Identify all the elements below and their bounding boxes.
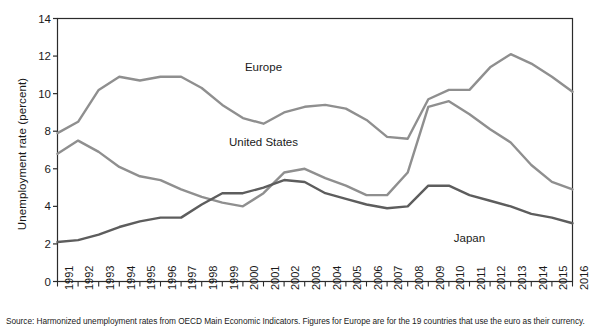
x-axis-tick-label: 1997: [186, 265, 198, 289]
x-axis-tick-label: 2016: [578, 265, 590, 289]
x-axis-tick-label: 2008: [413, 265, 425, 289]
series-line-united-states: [58, 101, 573, 206]
plot-frame: [58, 19, 573, 282]
x-axis-tick-label: 1991: [63, 265, 75, 289]
x-axis-tick-label: 2006: [372, 265, 384, 289]
x-axis-tick-label: 2014: [537, 265, 549, 289]
x-axis-tick-label: 1995: [145, 265, 157, 289]
x-axis-tick-label: 2010: [454, 265, 466, 289]
x-axis-tick-label: 2005: [351, 265, 363, 289]
x-axis-tick-label: 2015: [557, 265, 569, 289]
x-axis-tick-label: 2001: [269, 265, 281, 289]
x-axis-tick-label: 1996: [166, 265, 178, 289]
series-line-japan: [58, 180, 573, 242]
x-axis-tick-label: 2007: [392, 265, 404, 289]
x-axis-tick-label: 1992: [83, 265, 95, 289]
x-axis-tick-label: 2004: [331, 265, 343, 289]
series-label-europe: Europe: [245, 61, 282, 73]
x-axis-tick-label: 1993: [104, 265, 116, 289]
x-axis-tick-label: 2009: [434, 265, 446, 289]
x-axis-tick-label: 2011: [475, 266, 487, 290]
series-label-japan: Japan: [454, 232, 485, 244]
series-line-europe: [58, 54, 573, 139]
x-axis-tick-label: 1998: [207, 265, 219, 289]
x-axis-tick-label: 1994: [125, 265, 137, 289]
x-axis-tick-label: 2013: [516, 265, 528, 289]
x-axis-tick-label: 2000: [248, 265, 260, 289]
x-axis-tick-label: 1999: [228, 265, 240, 289]
source-note: Source: Harmonized unemployment rates fr…: [6, 316, 585, 326]
series-label-united-states: United States: [229, 136, 298, 148]
x-axis-tick-label: 2002: [289, 265, 301, 289]
x-axis-tick-label: 2003: [310, 265, 322, 289]
x-axis-tick-label: 2012: [495, 265, 507, 289]
